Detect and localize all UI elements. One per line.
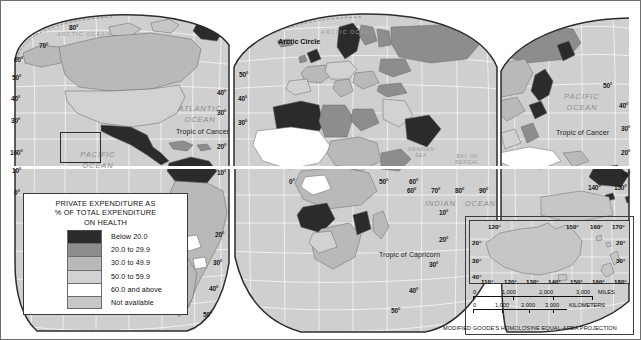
- aus-lon-top-160: 160°: [590, 223, 603, 230]
- legend-label: 50.0 to 59.9: [111, 272, 150, 281]
- miles-bar: [473, 296, 593, 301]
- km-unit: KILOMETERS: [569, 302, 605, 308]
- legend-item: 60.0 and above: [67, 283, 187, 296]
- km-tick-0: 0: [473, 302, 476, 308]
- legend-label: 30.0 to 49.9: [111, 258, 150, 267]
- legend-swatch: [67, 283, 102, 296]
- legend-swatch: [67, 270, 102, 283]
- legend-label: 60.0 and above: [111, 285, 162, 294]
- legend-swatch: [67, 243, 102, 256]
- aus-lat-left-30: 30°: [472, 257, 481, 264]
- aus-lat-right-20: 20°: [616, 239, 625, 246]
- aus-lon-top-150: 150°: [566, 223, 579, 230]
- legend-label: Not available: [111, 298, 154, 307]
- miles-unit: MILES: [598, 289, 615, 295]
- km-tick-3: 3,000: [545, 302, 559, 308]
- world-map-figure: ARCTIC OCEAN ARCTIC OCEAN ATLANTICOCEAN …: [0, 0, 641, 340]
- legend-title: PRIVATE EXPENDITURE AS % OF TOTAL EXPEND…: [24, 198, 187, 227]
- legend-swatch: [67, 256, 102, 269]
- aus-lon-top-120: 120°: [488, 223, 501, 230]
- scale-miles: 0 1,000 2,000 3,000 MILES: [473, 289, 628, 302]
- australia-inset-canvas: [470, 221, 630, 284]
- scale-bars: 0 1,000 2,000 3,000 MILES 0 1,000 2,000 …: [473, 289, 628, 319]
- projection-note: MODIFIED GOODE'S HOMOLOSINE EQUAL-AREA P…: [425, 325, 635, 331]
- km-tick-2: 2,000: [521, 302, 535, 308]
- aus-lon-bot-110: 110°: [481, 278, 493, 285]
- legend-item: Not available: [67, 296, 187, 309]
- miles-tick-3: 3,000: [576, 289, 590, 295]
- aus-lat-left-20: 20°: [472, 239, 481, 246]
- legend-label: Below 20.0: [111, 232, 148, 241]
- legend-item: Below 20.0: [67, 230, 187, 243]
- km-tick-1: 1,000: [495, 302, 509, 308]
- legend-item: 50.0 to 59.9: [67, 270, 187, 283]
- aus-lon-bot-180: 180°: [614, 278, 627, 285]
- miles-tick-2: 2,000: [539, 289, 553, 295]
- legend-label: 20.0 to 29.9: [111, 245, 150, 254]
- aus-lon-bot-150: 150°: [570, 278, 583, 285]
- lobe-eurafrica: [229, 1, 504, 340]
- legend-title-line2: % OF TOTAL EXPENDITURE: [30, 208, 181, 217]
- aus-lon-bot-130: 130°: [526, 278, 539, 285]
- aus-lon-bot-120: 120°: [504, 278, 517, 285]
- aus-lon-top-170: 170°: [612, 223, 625, 230]
- legend-title-line1: PRIVATE EXPENDITURE AS: [30, 199, 181, 208]
- miles-tick-0: 0: [473, 289, 476, 295]
- aus-lat-right-30: 30°: [616, 257, 625, 264]
- aus-lon-bot-160: 160°: [592, 278, 605, 285]
- legend-rows: Below 20.0 20.0 to 29.9 30.0 to 49.9 50.…: [67, 230, 187, 309]
- hawaii-inset-frame: [60, 132, 101, 163]
- km-bar: [473, 309, 567, 314]
- miles-tick-1: 1,000: [502, 289, 516, 295]
- legend-item: 30.0 to 49.9: [67, 256, 187, 269]
- legend-swatch: [67, 296, 102, 309]
- aus-lon-bot-140: 140°: [548, 278, 561, 285]
- aus-lat-left-40: 40°: [472, 273, 481, 280]
- scale-kilometers: 0 1,000 2,000 3,000 KILOMETERS: [473, 302, 628, 315]
- legend-title-line3: ON HEALTH: [30, 218, 181, 227]
- legend-item: 20.0 to 29.9: [67, 243, 187, 256]
- legend-panel: PRIVATE EXPENDITURE AS % OF TOTAL EXPEND…: [23, 193, 188, 315]
- legend-swatch: [67, 230, 102, 243]
